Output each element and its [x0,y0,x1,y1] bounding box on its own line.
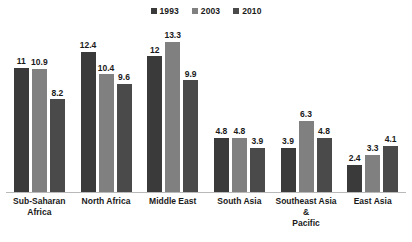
bar-2010[interactable] [250,148,265,192]
category-label-line: North Africa [74,196,139,207]
legend-swatch-icon [151,8,157,14]
bar-1993[interactable] [281,148,296,192]
bar-value-label: 8.2 [51,89,63,98]
bar-value-label: 3.3 [367,144,379,153]
bar-slot: 12.4 [81,26,96,192]
bar-slot: 11 [14,26,29,192]
bar-slot: 10.4 [99,26,114,192]
category-label-4: Southeast Asia &Pacific [273,196,340,229]
bar-1993[interactable] [347,165,362,192]
legend-swatch-icon [233,8,239,14]
category-label-line: Middle East [140,196,205,207]
legend-label: 1993 [160,7,179,16]
bar-2003[interactable] [299,121,314,192]
bar-value-label: 9.9 [185,70,197,79]
bar-value-label: 12.4 [80,41,97,50]
bar-slot: 3.3 [365,26,380,192]
category-label-2: Middle East [139,196,206,229]
bar-slot: 3.9 [281,26,296,192]
category-label-5: East Asia [339,196,406,229]
bar-value-label: 13.3 [164,31,181,40]
category-label-3: South Asia [206,196,273,229]
bar-value-label: 10.9 [31,58,48,67]
bar-slot: 6.3 [299,26,314,192]
bar-group: 1110.98.2 [6,26,73,192]
bar-2003[interactable] [365,155,380,192]
bar-slot: 4.8 [317,26,332,192]
legend-item-2003[interactable]: 2003 [192,7,220,16]
bar-slot: 13.3 [165,26,180,192]
bar-value-label: 10.4 [98,64,115,73]
bar-value-label: 12 [150,46,159,55]
bar-1993[interactable] [81,52,96,192]
bar-2010[interactable] [317,138,332,192]
legend-swatch-icon [192,8,198,14]
bar-2010[interactable] [50,99,65,192]
bar-2010[interactable] [117,84,132,192]
bar-group: 1213.39.9 [139,26,206,192]
bar-value-label: 3.9 [282,137,294,146]
bar-value-label: 4.8 [233,127,245,136]
category-label-0: Sub-SaharanAfrica [6,196,73,229]
bar-value-label: 9.6 [118,73,130,82]
bar-slot: 9.9 [183,26,198,192]
bar-slot: 2.4 [347,26,362,192]
bar-value-label: 2.4 [349,154,361,163]
bar-chart: 199320032010 1110.98.212.410.49.61213.39… [0,0,412,242]
bar-slot: 10.9 [32,26,47,192]
bar-value-label: 4.8 [318,127,330,136]
bar-value-label: 3.9 [251,137,263,146]
bar-slot: 8.2 [50,26,65,192]
chart-legend: 199320032010 [0,7,412,16]
category-label-1: North Africa [73,196,140,229]
bar-slot: 12 [147,26,162,192]
bar-slot: 3.9 [250,26,265,192]
category-label-line: Pacific [274,218,339,229]
bar-slot: 4.8 [214,26,229,192]
bar-value-label: 6.3 [300,110,312,119]
bar-value-label: 4.8 [215,127,227,136]
bar-value-label: 11 [17,57,26,66]
category-axis-labels: Sub-SaharanAfricaNorth AfricaMiddle East… [6,196,406,229]
bar-slot: 4.8 [232,26,247,192]
bar-group: 2.43.34.1 [339,26,406,192]
bar-1993[interactable] [147,56,162,192]
bar-group: 4.84.83.9 [206,26,273,192]
bar-2003[interactable] [99,74,114,192]
bar-slot: 4.1 [383,26,398,192]
axis-baseline [6,192,406,193]
category-label-line: Southeast Asia & [274,196,339,218]
category-label-line: Africa [7,207,72,218]
legend-item-1993[interactable]: 1993 [151,7,179,16]
category-label-line: South Asia [207,196,272,207]
legend-label: 2003 [201,7,220,16]
category-label-line: East Asia [340,196,405,207]
legend-label: 2010 [242,7,261,16]
bar-1993[interactable] [214,138,229,192]
legend-item-2010[interactable]: 2010 [233,7,261,16]
bar-group: 3.96.34.8 [273,26,340,192]
bar-group: 12.410.49.6 [73,26,140,192]
bar-1993[interactable] [14,68,29,192]
bar-2003[interactable] [232,138,247,192]
bar-2003[interactable] [32,69,47,192]
category-label-line: Sub-Saharan [7,196,72,207]
bar-2010[interactable] [383,146,398,192]
bar-value-label: 4.1 [385,135,397,144]
plot-area: 1110.98.212.410.49.61213.39.94.84.83.93.… [6,26,406,192]
bar-2003[interactable] [165,42,180,192]
bar-groups: 1110.98.212.410.49.61213.39.94.84.83.93.… [6,26,406,192]
bar-slot: 9.6 [117,26,132,192]
bar-2010[interactable] [183,80,198,192]
